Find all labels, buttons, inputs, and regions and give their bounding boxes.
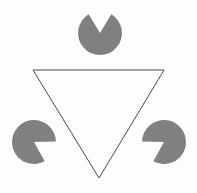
kanizsa-figure-canvas: [0, 0, 197, 193]
figure-svg: [0, 0, 197, 193]
figure-background: [0, 0, 197, 193]
